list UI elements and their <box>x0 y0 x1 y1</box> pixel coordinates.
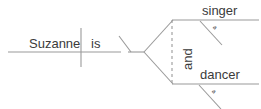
fork-branch-lower <box>144 52 173 84</box>
subject-word: Suzanne <box>29 37 80 50</box>
complement-word-singer: singer <box>202 4 237 17</box>
sentence-diagram: Suzanne is and singer dancer a a <box>0 0 261 109</box>
complement-word-dancer: dancer <box>200 68 240 81</box>
conjunction-word: and <box>181 48 194 70</box>
predicate-nominative-slant <box>119 36 131 52</box>
fork-branch-upper <box>144 20 173 52</box>
article-modifier-line-lower <box>199 85 221 109</box>
verb-word: is <box>91 37 100 50</box>
article-modifier-line-upper <box>200 21 222 45</box>
